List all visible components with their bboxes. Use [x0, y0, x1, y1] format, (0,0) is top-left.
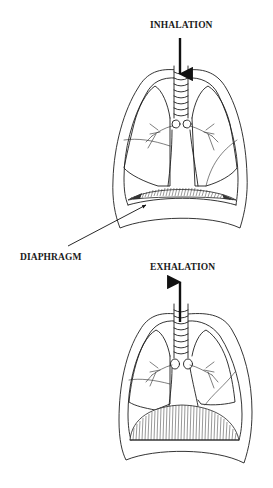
trachea-icon: [171, 302, 193, 369]
left-bronchi-icon: [146, 362, 172, 386]
right-lung-icon: [192, 330, 235, 405]
left-lung-icon: [129, 330, 170, 410]
mediastinum-icon: [169, 368, 198, 406]
left-bronchi-icon: [146, 124, 172, 148]
trachea-icon: [172, 64, 191, 128]
exhalation-thorax: [119, 282, 252, 463]
respiration-diagram-svg: [0, 0, 273, 488]
right-bronchi-icon: [190, 124, 218, 150]
exhalation-diaphragm-icon: [130, 405, 239, 440]
inhalation-thorax: [113, 38, 247, 228]
right-lung-icon: [192, 86, 237, 186]
diaphragm-pointer-icon: [68, 205, 146, 246]
mediastinum-icon: [168, 130, 198, 186]
right-bronchi-icon: [190, 362, 218, 388]
